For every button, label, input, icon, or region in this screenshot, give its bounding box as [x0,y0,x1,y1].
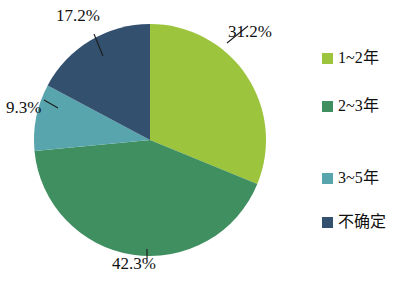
pie-plot-area: 31.2% 42.3% 9.3% 17.2% [0,0,300,285]
pie-value-label-3-5nian: 9.3% [6,98,41,118]
legend-swatch-3-5nian [322,173,333,184]
legend-item-2-3nian: 2~3年 [322,96,379,116]
legend-swatch-buqueding [322,217,333,228]
pie-slices [34,24,266,256]
pie-value-label-1-2nian: 31.2% [228,22,272,42]
pie-value-label-2-3nian: 42.3% [112,254,156,274]
legend-label-1-2nian: 1~2年 [338,50,379,66]
legend-item-3-5nian: 3~5年 [322,168,379,188]
pie-value-label-buqueding: 17.2% [56,6,100,26]
legend-label-3-5nian: 3~5年 [338,170,379,186]
legend-item-buqueding: 不确定 [322,212,386,232]
legend-label-2-3nian: 2~3年 [338,98,379,114]
pie-chart-figure: 31.2% 42.3% 9.3% 17.2% 1~2年 2~3年 3~5年 不确… [0,0,405,285]
legend-swatch-2-3nian [322,101,333,112]
legend-label-buqueding: 不确定 [338,214,386,230]
legend-item-1-2nian: 1~2年 [322,48,379,68]
chart-legend: 1~2年 2~3年 3~5年 不确定 [322,44,405,239]
legend-swatch-1-2nian [322,53,333,64]
pie-svg [0,0,300,285]
